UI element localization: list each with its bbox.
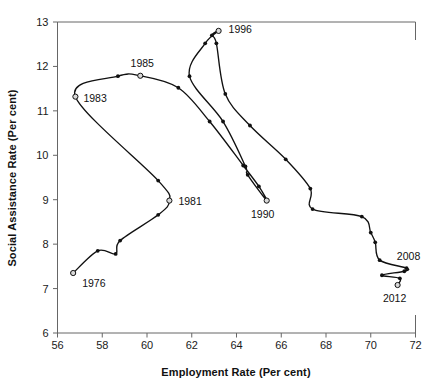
data-point-marker [378, 258, 382, 262]
x-tick-label: 62 [186, 339, 198, 351]
data-point-marker [176, 86, 180, 90]
data-point-marker [380, 273, 384, 277]
scatter-line-chart: 565860626466687072 678910111213 19761981… [0, 0, 439, 389]
data-point-marker [116, 74, 120, 78]
data-point-marker [246, 173, 250, 177]
data-point-marker [308, 187, 312, 191]
year-label-1981: 1981 [178, 195, 202, 207]
x-tick-label: 56 [51, 339, 63, 351]
chart-container: 565860626466687072 678910111213 19761981… [0, 0, 439, 389]
data-point-marker [360, 215, 364, 219]
x-tick-label: 60 [141, 339, 153, 351]
y-tick-label: 11 [37, 105, 48, 117]
data-point-marker [118, 239, 122, 243]
y-axis-title: Social Assistance Rate (Per cent) [6, 89, 18, 266]
data-point-marker-highlight [71, 270, 76, 275]
data-point-marker [398, 276, 402, 280]
data-point-marker [188, 74, 192, 78]
year-label-1996: 1996 [229, 23, 253, 35]
data-point-marker [311, 207, 315, 211]
data-point-marker-highlight [167, 198, 172, 203]
data-point-marker [405, 266, 409, 270]
data-point-marker-highlight [264, 198, 269, 203]
x-tick-label: 64 [230, 339, 242, 351]
data-point-marker [221, 120, 225, 124]
year-label-1985: 1985 [131, 57, 155, 69]
data-point-marker [284, 157, 288, 161]
year-label-1983: 1983 [83, 92, 107, 104]
year-label-1990: 1990 [251, 208, 275, 220]
x-tick-label: 72 [409, 339, 421, 351]
data-point-marker [214, 41, 218, 45]
y-tick-label: 13 [36, 16, 48, 28]
data-point-marker [208, 120, 212, 124]
data-point-marker [257, 184, 261, 188]
data-point-marker-highlight [216, 28, 221, 33]
chart-background [0, 0, 439, 389]
data-point-marker-highlight [138, 73, 143, 78]
x-tick-labels: 565860626466687072 [51, 339, 421, 351]
y-tick-label: 7 [42, 283, 48, 295]
data-point-marker [210, 33, 214, 37]
x-tick-label: 70 [365, 339, 377, 351]
data-point-marker [223, 92, 227, 96]
y-tick-label: 10 [36, 149, 48, 161]
data-point-marker [96, 249, 100, 253]
year-label-1976: 1976 [82, 277, 106, 289]
data-point-marker [402, 269, 406, 273]
data-point-marker [156, 179, 160, 183]
y-tick-label: 8 [42, 238, 48, 250]
data-point-marker [373, 240, 377, 244]
data-point-marker-highlight [395, 282, 400, 287]
y-tick-label: 12 [36, 60, 48, 72]
data-point-marker [248, 124, 252, 128]
x-tick-label: 68 [320, 339, 332, 351]
x-tick-label: 58 [96, 339, 108, 351]
data-point-marker [156, 213, 160, 217]
data-point-marker [114, 252, 118, 256]
year-label-2008: 2008 [397, 250, 421, 262]
y-tick-label: 9 [42, 194, 48, 206]
data-point-marker [203, 41, 207, 45]
data-point-marker-highlight [73, 94, 78, 99]
y-tick-label: 6 [42, 327, 48, 339]
data-point-marker [369, 231, 373, 235]
year-label-2012: 2012 [383, 292, 407, 304]
x-axis-title: Employment Rate (Per cent) [161, 366, 311, 378]
data-point-marker [244, 164, 248, 168]
x-tick-label: 66 [275, 339, 287, 351]
